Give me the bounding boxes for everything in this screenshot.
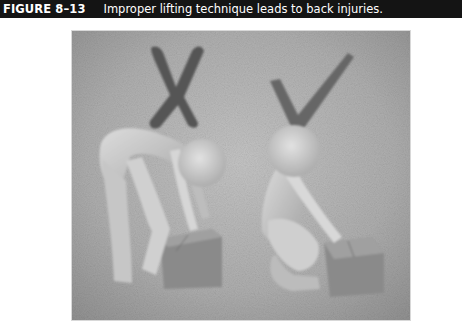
figure-caption-bar: FIGURE 8–13 Improper lifting technique l… xyxy=(0,0,462,18)
figure-illustration xyxy=(72,31,410,320)
figure-label: FIGURE 8–13 xyxy=(0,2,85,16)
figure-caption: Improper lifting technique leads to back… xyxy=(103,2,382,16)
